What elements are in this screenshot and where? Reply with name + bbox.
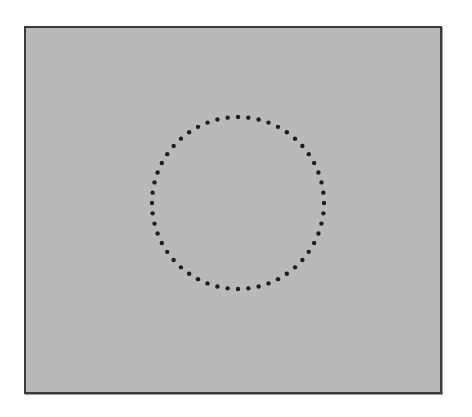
circle-dot [165,152,169,156]
circle-dot [165,250,169,254]
circle-dot [276,125,280,129]
dotted-circle [26,28,440,392]
circle-dot [150,190,154,194]
circle-dot [171,144,175,148]
circle-dot [150,211,154,215]
circle-dot [319,221,323,225]
circle-dot [321,211,325,215]
circle-dot [215,284,219,288]
circle-dot [312,241,316,245]
circle-dot [205,281,209,285]
circle-dot [225,286,229,290]
circle-dot [187,130,191,134]
circle-dot [256,284,260,288]
circle-dot [293,136,297,140]
circle-dot [246,115,250,119]
circle-dot [155,170,159,174]
circle-dot [236,115,240,119]
gray-panel [24,26,442,394]
circle-dot [205,120,209,124]
circle-dot [215,117,219,121]
circle-dot [319,180,323,184]
circle-dot [160,161,164,165]
circle-dot [285,130,289,134]
circle-dot [179,265,183,269]
circle-dot [256,117,260,121]
circle-dot [321,190,325,194]
circle-dot [316,170,320,174]
circle-dot [155,231,159,235]
circle-dot [316,231,320,235]
circle-dot [160,241,164,245]
circle-dot [171,258,175,262]
circle-dot [322,201,326,205]
circle-dot [300,258,304,262]
circle-dot [179,136,183,140]
circle-dot [307,250,311,254]
circle-dot [150,201,154,205]
circle-dot [293,265,297,269]
circle-dot [236,287,240,291]
circle-dot [246,286,250,290]
circle-dot [196,277,200,281]
circle-dot [152,221,156,225]
circle-dot [312,161,316,165]
circle-dot [196,125,200,129]
circle-dot [276,277,280,281]
circle-dot [300,144,304,148]
circle-dot [225,115,229,119]
circle-dot [187,272,191,276]
circle-dot [285,272,289,276]
circle-dot [307,152,311,156]
circle-dot [152,180,156,184]
circle-dot [266,120,270,124]
circle-dot [266,281,270,285]
